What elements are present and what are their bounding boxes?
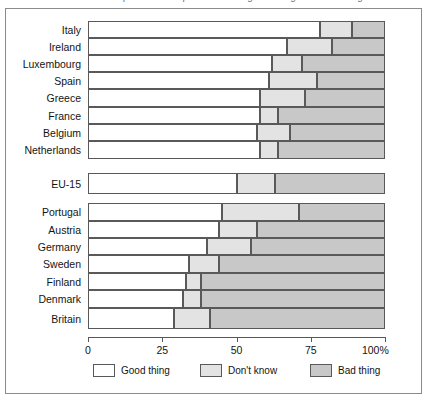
category-label: Spain: [54, 75, 81, 86]
x-tick-label: 100%: [362, 344, 389, 356]
bar-segment: [237, 173, 275, 194]
legend-item[interactable]: Bad thing: [310, 362, 380, 378]
bar-segment: [290, 124, 385, 141]
bar-row: Finland: [88, 273, 385, 290]
bar-segment: [88, 107, 260, 124]
bar-segment: [207, 238, 251, 255]
legend-label: Bad thing: [338, 365, 380, 376]
bar-segment: [260, 89, 305, 107]
category-label: France: [48, 110, 81, 121]
bar-segment: [186, 273, 201, 290]
bar-segment: [210, 308, 385, 329]
bar-segment: [88, 308, 174, 329]
bar-row: Denmark: [88, 290, 385, 308]
bar-segment: [88, 141, 260, 159]
bar-segment: [278, 107, 385, 124]
category-label: Denmark: [38, 294, 81, 305]
legend-swatch-icon: [310, 364, 332, 377]
bar-row: Belgium: [88, 124, 385, 141]
bar-segment: [88, 38, 287, 55]
category-label: Portugal: [42, 207, 81, 218]
bar-row: Greece: [88, 89, 385, 107]
bar-segment: [272, 55, 302, 72]
bar-segment: [222, 203, 299, 221]
bar-segment: [299, 203, 385, 221]
category-label: Ireland: [49, 41, 81, 52]
bar-row: Portugal: [88, 203, 385, 221]
bar-segment: [251, 238, 385, 255]
bar-row: Britain: [88, 308, 385, 329]
bar-segment: [352, 21, 385, 38]
bar-segment: [88, 55, 272, 72]
legend-swatch-icon: [200, 364, 222, 377]
x-tick-mark: [237, 337, 238, 342]
bar-segment: [257, 124, 290, 141]
x-tick-label: 25: [156, 344, 168, 356]
bar-segment: [317, 72, 385, 89]
legend-label: Good thing: [121, 365, 170, 376]
bar-segment: [88, 221, 219, 238]
bar-segment: [278, 141, 385, 159]
bar-segment: [219, 221, 257, 238]
bar-segment: [260, 107, 278, 124]
x-tick-mark: [311, 337, 312, 342]
x-tick-mark: [385, 337, 386, 342]
category-label: Belgium: [43, 127, 81, 138]
bar-segment: [189, 255, 219, 273]
bar-segment: [88, 238, 207, 255]
bar-segment: [88, 203, 222, 221]
bar-segment: [287, 38, 332, 55]
category-label: Sweden: [43, 259, 81, 270]
legend-swatch-icon: [93, 364, 115, 377]
bar-segment: [302, 55, 385, 72]
x-tick-mark: [162, 337, 163, 342]
bar-segment: [332, 38, 385, 55]
bar-row: EU-15: [88, 173, 385, 194]
category-label: Finland: [47, 276, 81, 287]
bar-row: Austria: [88, 221, 385, 238]
category-label: Austria: [48, 224, 81, 235]
category-label: Germany: [38, 241, 81, 252]
bar-segment: [269, 72, 317, 89]
bar-segment: [88, 290, 183, 308]
bar-segment: [260, 141, 278, 159]
category-label: Greece: [47, 93, 81, 104]
bar-segment: [257, 221, 385, 238]
bar-segment: [201, 290, 385, 308]
plot-area: ItalyIrelandLuxembourgSpainGreeceFranceB…: [0, 0, 429, 401]
bar-segment: [88, 72, 269, 89]
bar-row: Luxembourg: [88, 55, 385, 72]
bar-row: Ireland: [88, 38, 385, 55]
bar-row: Sweden: [88, 255, 385, 273]
category-label: Luxembourg: [23, 58, 81, 69]
bar-row: Italy: [88, 21, 385, 38]
bar-segment: [88, 173, 237, 194]
bar-row: Spain: [88, 72, 385, 89]
bar-segment: [88, 89, 260, 107]
bar-segment: [174, 308, 210, 329]
bar-segment: [305, 89, 385, 107]
category-label: Britain: [51, 313, 81, 324]
category-label: Netherlands: [24, 145, 81, 156]
bar-segment: [88, 255, 189, 273]
legend-item[interactable]: Don't know: [200, 362, 277, 378]
x-tick-mark: [88, 337, 89, 342]
x-tick-label: 50: [231, 344, 243, 356]
bar-segment: [88, 21, 320, 38]
bar-row: Netherlands: [88, 141, 385, 159]
bar-segment: [88, 124, 257, 141]
x-tick-label: 75: [305, 344, 317, 356]
bar-segment: [201, 273, 385, 290]
bar-segment: [275, 173, 385, 194]
category-label: Italy: [62, 24, 81, 35]
bar-segment: [219, 255, 385, 273]
bar-row: Germany: [88, 238, 385, 255]
x-tick-label: 0: [85, 344, 91, 356]
legend-item[interactable]: Good thing: [93, 362, 170, 378]
chart-legend: Good thingDon't knowBad thing: [88, 362, 385, 380]
bar-segment: [88, 273, 186, 290]
bar-segment: [320, 21, 352, 38]
bar-row: France: [88, 107, 385, 124]
bar-segment: [183, 290, 201, 308]
legend-label: Don't know: [228, 365, 277, 376]
